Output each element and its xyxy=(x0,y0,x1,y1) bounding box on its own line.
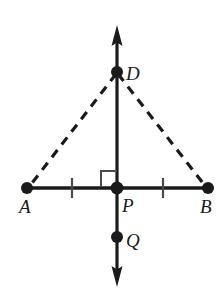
point-q-dot xyxy=(111,231,123,243)
point-b-dot xyxy=(202,182,214,194)
point-label-a: A xyxy=(17,196,31,217)
point-d-dot xyxy=(111,66,123,78)
point-label-b: B xyxy=(200,196,212,217)
geometry-figure: D A P B Q xyxy=(0,0,224,302)
point-label-q: Q xyxy=(126,230,140,251)
point-label-p: P xyxy=(121,195,134,216)
point-label-d: D xyxy=(125,63,140,84)
geometry-canvas: D A P B Q xyxy=(0,0,224,302)
segment-db xyxy=(118,74,206,187)
point-a-dot xyxy=(21,182,33,194)
point-p-dot xyxy=(111,182,124,195)
